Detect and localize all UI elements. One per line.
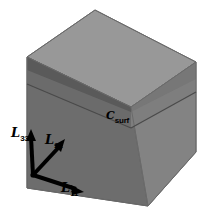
surface-label-csurf: Csurf — [106, 106, 129, 125]
cube-figure: L33 L22 L11 Csurf — [0, 0, 212, 224]
axis-label-l33: L33 — [11, 124, 29, 143]
axis-l33-shaft — [31, 137, 33, 175]
axis-label-l22-symbol: L — [45, 132, 54, 147]
axis-origin — [30, 172, 35, 177]
axis-label-l22: L22 — [45, 131, 63, 150]
axis-label-l22-subscript: 22 — [54, 141, 63, 150]
surface-label-symbol: C — [106, 109, 115, 122]
axis-label-l11-subscript: 11 — [70, 189, 78, 198]
axis-label-l11: L11 — [61, 179, 78, 198]
axis-label-l33-subscript: 33 — [20, 134, 29, 143]
axis-label-l11-symbol: L — [61, 180, 70, 195]
axis-label-l33-symbol: L — [11, 125, 20, 140]
surface-label-subscript: surf — [115, 116, 129, 125]
